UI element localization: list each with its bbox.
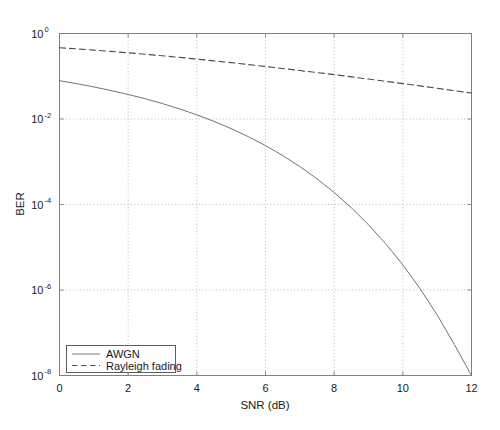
x-tick-label: 0: [56, 382, 62, 394]
x-tick-label: 6: [262, 382, 268, 394]
x-tick-label: 2: [125, 382, 131, 394]
svg-text:-4: -4: [45, 196, 52, 205]
svg-text:-6: -6: [45, 282, 52, 291]
svg-text:10: 10: [31, 370, 43, 382]
legend-label-rayleigh: Rayleigh fading: [106, 360, 182, 372]
svg-text:0: 0: [45, 25, 49, 34]
svg-text:10: 10: [31, 28, 43, 40]
x-axis-title: SNR (dB): [240, 399, 289, 411]
legend[interactable]: AWGN Rayleigh fading: [67, 346, 182, 373]
legend-label-awgn: AWGN: [106, 348, 140, 360]
x-tick-label: 12: [465, 382, 477, 394]
svg-text:10: 10: [31, 199, 43, 211]
svg-text:10: 10: [31, 113, 43, 125]
svg-text:10: 10: [31, 284, 43, 296]
y-axis-title: BER: [14, 192, 26, 216]
x-tick-label: 8: [331, 382, 337, 394]
svg-text:-2: -2: [45, 111, 52, 120]
svg-text:-8: -8: [45, 367, 52, 376]
ber-snr-chart-figure: 024681012 10010-210-410-610-8 SNR (dB) B…: [0, 0, 500, 430]
chart-canvas: 024681012 10010-210-410-610-8 SNR (dB) B…: [0, 0, 500, 430]
x-tick-label: 10: [397, 382, 409, 394]
x-tick-label: 4: [194, 382, 200, 394]
